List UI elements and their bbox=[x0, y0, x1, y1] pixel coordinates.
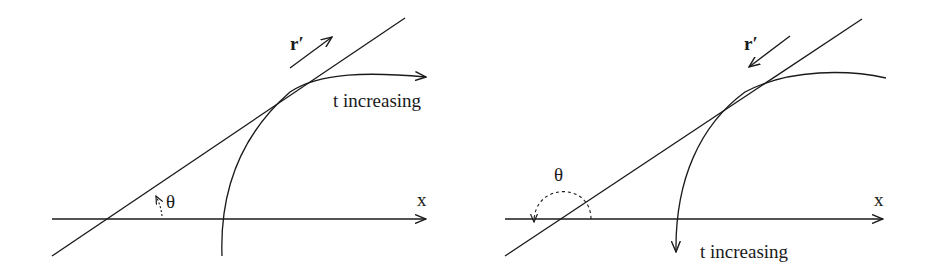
diagram-canvas: x t increasing r′ θ x t increasing r′ θ bbox=[0, 0, 929, 273]
direction-label: t increasing bbox=[700, 241, 789, 262]
angle-label: θ bbox=[166, 191, 175, 212]
velocity-label: r′ bbox=[744, 33, 758, 54]
direction-label: t increasing bbox=[333, 90, 422, 111]
curve bbox=[676, 73, 886, 252]
tangent-line bbox=[505, 19, 862, 256]
velocity-label: r′ bbox=[290, 33, 304, 54]
angle-arc bbox=[156, 196, 162, 216]
tangent-line bbox=[52, 18, 405, 256]
right-figure: x t increasing r′ θ bbox=[505, 19, 886, 262]
left-figure: x t increasing r′ θ bbox=[52, 18, 427, 256]
angle-label: θ bbox=[554, 164, 563, 185]
x-axis-label: x bbox=[874, 189, 884, 210]
x-axis-label: x bbox=[417, 189, 427, 210]
